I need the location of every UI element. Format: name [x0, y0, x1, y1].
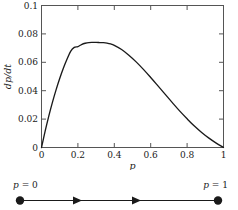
x-tick-label-5: 1 — [221, 150, 227, 160]
y-axis-ticks — [42, 6, 47, 148]
phase-line-canvas: p = 0 p = 1 — [0, 168, 238, 210]
y-tick-labels: 0 0.02 0.04 0.06 0.08 0.1 — [18, 1, 38, 153]
x-tick-label-2: 0.4 — [107, 150, 122, 160]
y-tick-label-5: 0.1 — [24, 1, 38, 11]
y-tick-label-4: 0.08 — [18, 29, 38, 39]
y-tick-label-3: 0.06 — [18, 57, 38, 67]
phase-line-diagram: p = 0 p = 1 — [0, 168, 238, 210]
phase-left-label-eq: = 0 — [19, 180, 38, 190]
phase-right-label-eq: = 1 — [209, 180, 228, 190]
dpdt-curve — [42, 42, 224, 147]
x-tick-label-4: 0.8 — [180, 150, 195, 160]
y-axis-ticks-right — [219, 34, 224, 119]
phase-left-label: p = 0 — [13, 180, 38, 190]
y-axis-title: dp/dt — [2, 64, 13, 89]
phase-right-label: p = 1 — [203, 180, 228, 190]
y-tick-label-2: 0.04 — [18, 86, 38, 96]
dpdt-vs-p-chart: 0 0.02 0.04 0.06 0.08 0.1 0 0.2 0.4 0.6 … — [0, 0, 238, 170]
phase-arrowhead-2 — [132, 197, 141, 205]
x-axis-ticks-top — [78, 6, 187, 11]
phase-endpoint-left — [16, 196, 24, 204]
x-axis-ticks — [42, 143, 224, 148]
phase-arrowhead-1 — [73, 197, 82, 205]
x-tick-label-0: 0 — [39, 150, 45, 160]
x-tick-labels: 0 0.2 0.4 0.6 0.8 1 — [39, 150, 227, 160]
plot-frame — [42, 6, 224, 148]
figure-root: 0 0.02 0.04 0.06 0.08 0.1 0 0.2 0.4 0.6 … — [0, 0, 238, 210]
x-tick-label-1: 0.2 — [71, 150, 85, 160]
y-tick-label-0: 0 — [32, 143, 38, 153]
chart-canvas: 0 0.02 0.04 0.06 0.08 0.1 0 0.2 0.4 0.6 … — [0, 0, 238, 170]
y-tick-label-1: 0.02 — [18, 114, 38, 124]
phase-endpoint-right — [214, 196, 222, 204]
x-tick-label-3: 0.6 — [144, 150, 159, 160]
